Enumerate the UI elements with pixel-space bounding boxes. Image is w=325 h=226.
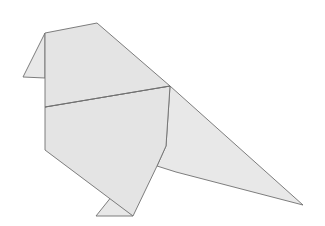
bird-tail xyxy=(157,86,303,205)
bird-beak xyxy=(23,33,45,78)
origami-bird-illustration xyxy=(0,0,325,226)
bird-body xyxy=(45,86,170,216)
